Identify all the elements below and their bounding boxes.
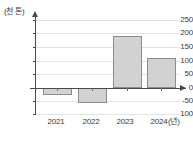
- gridline-200: [36, 33, 180, 34]
- clipped-caption: [28, 140, 168, 148]
- bar-2024: [147, 58, 176, 88]
- x-tick-mark: [92, 88, 93, 91]
- bar-2023: [113, 36, 142, 88]
- x-tick-mark: [127, 88, 128, 91]
- x-tick-label-2021: 2021: [38, 117, 74, 126]
- gridline-neg100: [36, 114, 180, 115]
- gridline-250: [36, 20, 180, 21]
- x-tick-label-2023: 2023: [107, 117, 143, 126]
- gridline-neg50: [36, 101, 180, 102]
- x-tick-mark: [57, 88, 58, 91]
- plot-area: [36, 20, 180, 114]
- chart-screenshot: (천 톤) 250 200 150 100 50 0 -50 -100: [0, 0, 193, 149]
- zero-axis-line: [30, 88, 186, 89]
- x-tick-label-2022: 2022: [73, 117, 109, 126]
- y-axis-arrow-icon: [32, 11, 38, 17]
- gridline-150: [36, 47, 180, 48]
- x-axis-unit-label: (년): [168, 117, 180, 126]
- x-tick-mark: [161, 88, 162, 91]
- y-axis-unit-label: (천 톤): [4, 7, 25, 16]
